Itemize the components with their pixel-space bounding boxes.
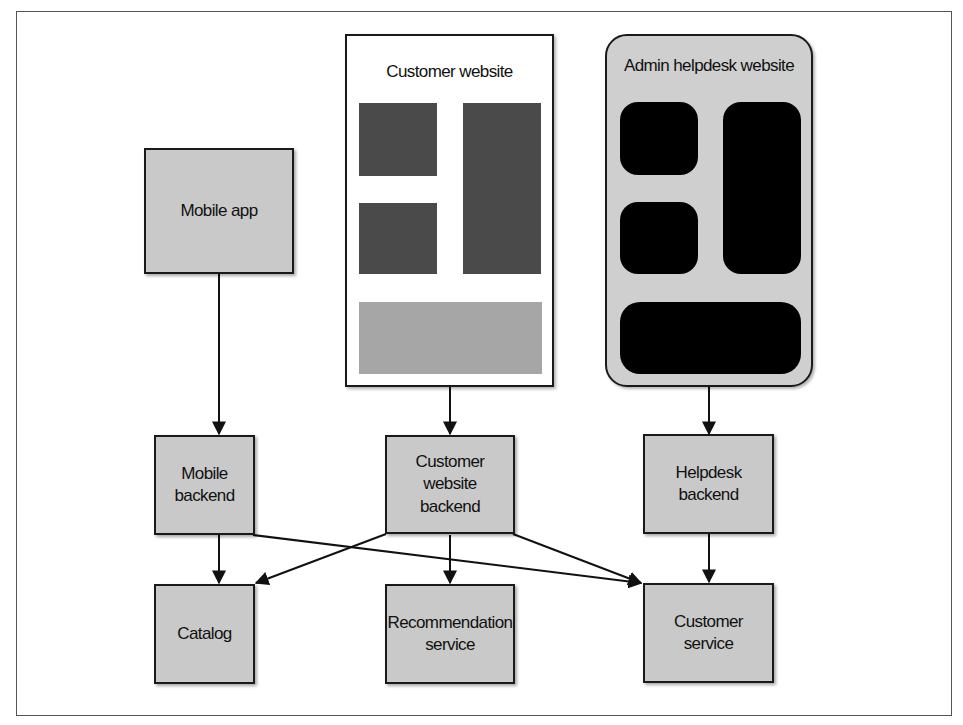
node-label: Recommendation service	[388, 612, 513, 656]
node-label: Customer website	[347, 62, 552, 82]
node-customer-website-backend[interactable]: Customer website backend	[385, 435, 515, 534]
admin-block	[620, 202, 698, 274]
website-block	[463, 103, 541, 274]
node-mobile-app[interactable]: Mobile app	[144, 148, 294, 274]
website-block	[359, 302, 542, 374]
edge-mobile-backend-to-customer-service	[253, 535, 641, 583]
node-customer-service[interactable]: Customer service	[643, 583, 774, 683]
node-customer-website[interactable]: Customer website	[345, 34, 554, 387]
node-label: Customer website backend	[416, 451, 485, 517]
website-block	[359, 103, 437, 176]
node-helpdesk-backend[interactable]: Helpdesk backend	[643, 434, 774, 534]
node-recommendation-service[interactable]: Recommendation service	[385, 584, 515, 684]
admin-block	[620, 302, 801, 374]
node-label: Helpdesk backend	[675, 462, 741, 506]
node-label: Customer service	[674, 611, 743, 655]
node-label: Catalog	[177, 623, 231, 645]
node-label: Admin helpdesk website	[607, 56, 811, 76]
node-label: Mobile backend	[156, 463, 253, 507]
admin-block	[723, 102, 801, 274]
node-mobile-backend[interactable]: Mobile backend	[154, 435, 255, 535]
edge-cw-backend-to-catalog	[256, 534, 386, 583]
node-catalog[interactable]: Catalog	[154, 584, 255, 684]
node-label: Mobile app	[180, 200, 257, 222]
node-admin-helpdesk-website[interactable]: Admin helpdesk website	[605, 34, 813, 387]
admin-block	[620, 102, 698, 175]
website-block	[359, 203, 437, 274]
